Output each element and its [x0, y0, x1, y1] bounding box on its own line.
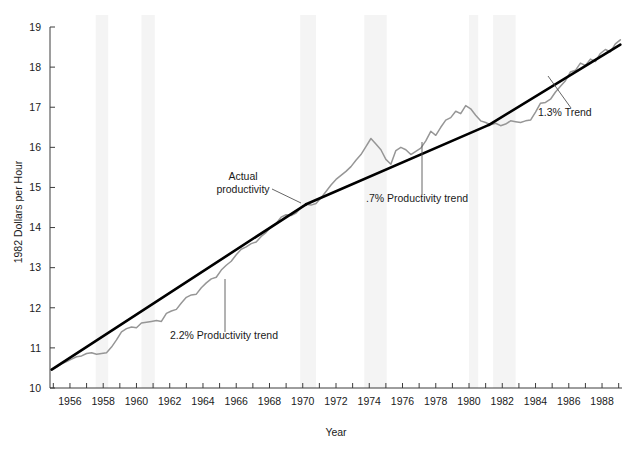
x-tick-label: 1962	[158, 395, 182, 407]
y-tick-label: 18	[29, 61, 41, 73]
x-tick-label: 1958	[92, 395, 116, 407]
y-tick-label: 16	[29, 141, 41, 153]
x-tick-label: 1980	[457, 395, 481, 407]
x-tick-label: 1988	[590, 395, 614, 407]
productivity-chart: 10111213141516171819 1956195819601962196…	[0, 0, 634, 449]
x-axis-tick-labels: 1956195819601962196419661968197019721974…	[58, 395, 614, 407]
chart-background	[0, 0, 634, 449]
annotation-label: Actual	[228, 170, 257, 182]
x-tick-label: 1984	[524, 395, 548, 407]
x-tick-label: 1966	[225, 395, 249, 407]
recession-band	[96, 15, 108, 388]
y-tick-label: 10	[29, 382, 41, 394]
x-tick-label: 1976	[391, 395, 415, 407]
y-tick-label: 14	[29, 221, 41, 233]
annotation-label: 2.2% Productivity trend	[170, 329, 278, 341]
annotation-label: .7% Productivity trend	[366, 192, 468, 204]
annotation-label: 1.3% Trend	[538, 106, 592, 118]
x-tick-label: 1960	[125, 395, 149, 407]
x-tick-label: 1974	[358, 395, 382, 407]
annotation-label: productivity	[216, 183, 270, 195]
x-tick-label: 1968	[258, 395, 282, 407]
recession-band	[469, 15, 478, 388]
y-tick-label: 19	[29, 21, 41, 33]
x-tick-label: 1986	[557, 395, 581, 407]
x-tick-label: 1978	[424, 395, 448, 407]
recession-band	[141, 15, 154, 388]
y-tick-label: 15	[29, 181, 41, 193]
chart-canvas: 10111213141516171819 1956195819601962196…	[0, 0, 634, 449]
x-tick-label: 1956	[58, 395, 82, 407]
x-tick-label: 1970	[291, 395, 315, 407]
y-tick-label: 12	[29, 302, 41, 314]
x-tick-label: 1982	[491, 395, 515, 407]
y-tick-label: 17	[29, 101, 41, 113]
y-axis-title: 1982 Dollars per Hour	[12, 160, 24, 263]
recession-band	[493, 15, 515, 388]
y-tick-label: 13	[29, 261, 41, 273]
x-axis-title: Year	[325, 426, 347, 438]
x-tick-label: 1964	[191, 395, 215, 407]
y-tick-label: 11	[30, 342, 41, 354]
x-tick-label: 1972	[324, 395, 348, 407]
